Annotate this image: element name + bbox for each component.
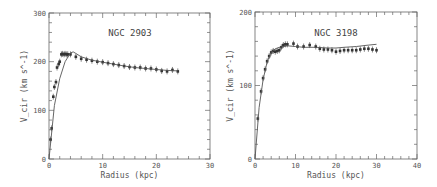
chart-title: NGC 2903 (108, 28, 151, 38)
x-tick-label: 40 (413, 162, 421, 170)
data-point (327, 48, 330, 51)
data-point (292, 42, 295, 45)
x-tick-label: 0 (253, 162, 257, 170)
chart-title: NGC 3198 (314, 28, 357, 38)
y-tick-label: 100 (239, 82, 252, 90)
y-tick-label: 200 (33, 58, 46, 66)
data-point (278, 49, 281, 52)
data-point (52, 95, 55, 98)
x-tick-label: 10 (98, 162, 106, 170)
x-tick-label: 0 (47, 162, 51, 170)
model-curve (255, 44, 377, 159)
data-point (355, 49, 358, 52)
data-point (80, 57, 83, 60)
data-point (371, 48, 374, 51)
data-point (339, 50, 342, 53)
y-tick-label: 100 (33, 107, 46, 115)
data-point (286, 43, 289, 46)
y-tick-label: 0 (248, 156, 252, 164)
data-point (58, 60, 61, 63)
data-point (363, 47, 366, 50)
rotation-curve-figure: 01020300100200300Radius (kpc)V_cir (km s… (0, 0, 437, 187)
data-point (351, 49, 354, 52)
model-curve (49, 52, 178, 159)
data-point (308, 44, 311, 47)
chart-panel-ngc-2903: 01020300100200300Radius (kpc)V_cir (km s… (20, 10, 214, 181)
data-point (367, 47, 370, 50)
data-point (347, 49, 350, 52)
x-axis-label: Radius (kpc) (101, 171, 159, 180)
data-point (335, 50, 338, 53)
data-point (56, 66, 59, 69)
data-point (375, 49, 378, 52)
chart-panel-ngc-3198: 0102030400100200Radius (kpc)V_cir (km s^… (226, 9, 421, 181)
data-point (55, 81, 58, 84)
data-point (343, 49, 346, 52)
y-axis-label: V_cir (km s^-1) (20, 50, 29, 122)
data-point (323, 48, 326, 51)
data-point (53, 86, 56, 89)
x-tick-label: 30 (206, 162, 214, 170)
x-tick-label: 30 (372, 162, 380, 170)
x-tick-label: 20 (332, 162, 340, 170)
data-point (359, 48, 362, 51)
x-tick-label: 10 (291, 162, 299, 170)
data-point (331, 49, 334, 52)
data-point (75, 56, 78, 59)
x-tick-label: 20 (152, 162, 160, 170)
y-axis-label: V_cir (km s^-1) (226, 49, 235, 121)
y-tick-label: 200 (239, 9, 252, 17)
y-tick-label: 300 (33, 10, 46, 18)
x-axis-label: Radius (kpc) (307, 171, 365, 180)
y-tick-label: 0 (42, 156, 46, 164)
